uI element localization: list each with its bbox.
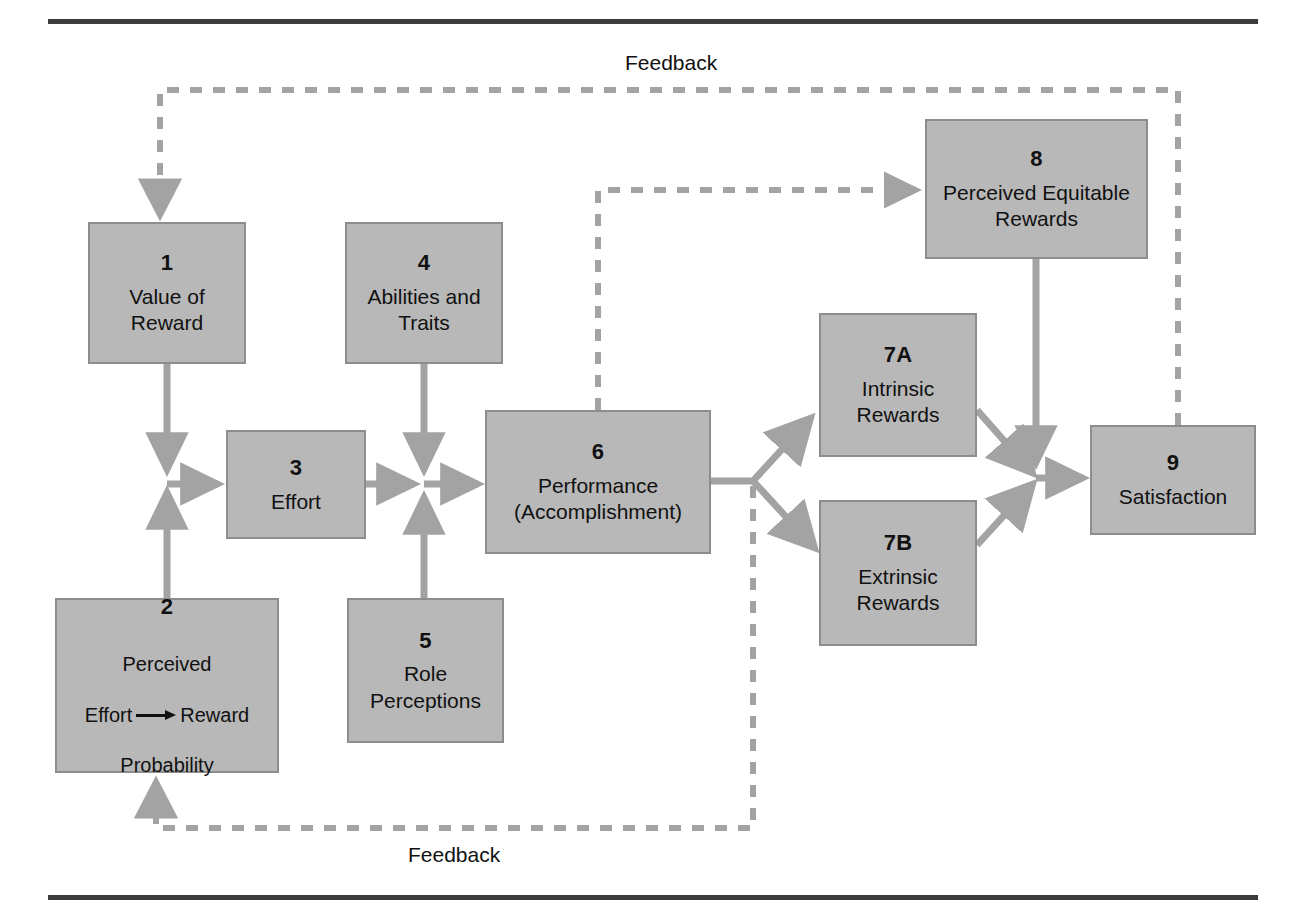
connector-7b-to-satisfaction-junction xyxy=(977,487,1030,545)
node-intrinsic-rewards[interactable]: 7A Intrinsic Rewards xyxy=(819,313,977,457)
diagram-canvas: 1 Value of Reward 2 Perceived EffortRewa… xyxy=(0,0,1308,924)
node-abilities-and-traits[interactable]: 4 Abilities and Traits xyxy=(345,222,503,364)
node-number: 1 xyxy=(161,249,173,277)
node-number: 9 xyxy=(1167,449,1179,477)
node-label: Satisfaction xyxy=(1113,484,1234,510)
feedback-label-bottom: Feedback xyxy=(408,843,500,867)
node-number: 2 xyxy=(161,593,173,621)
node-number: 7A xyxy=(884,341,913,369)
node-extrinsic-rewards[interactable]: 7B Extrinsic Rewards xyxy=(819,500,977,646)
node-effort[interactable]: 3 Effort xyxy=(226,430,366,539)
node-number: 4 xyxy=(418,249,430,277)
node-label: Extrinsic Rewards xyxy=(851,564,946,617)
node-perceived-equitable-rewards[interactable]: 8 Perceived Equitable Rewards xyxy=(925,119,1148,259)
node-label-line-1: Perceived xyxy=(123,653,212,675)
node-label: Abilities and Traits xyxy=(361,284,486,337)
connector-6-to-7a xyxy=(753,421,808,481)
node-number: 8 xyxy=(1030,145,1042,173)
node-label-line-2: EffortReward xyxy=(85,703,249,728)
node-label-effort: Effort xyxy=(85,703,132,728)
node-label: Effort xyxy=(265,489,327,515)
node-label: Perceived Equitable Rewards xyxy=(937,180,1136,233)
node-label-reward: Reward xyxy=(180,703,249,728)
node-number: 6 xyxy=(592,438,604,466)
node-label-line-3: Probability xyxy=(120,754,213,776)
node-label: Performance (Accomplishment) xyxy=(508,473,688,526)
node-label: Perceived EffortReward Probability xyxy=(79,627,255,778)
node-label: Intrinsic Rewards xyxy=(851,376,946,429)
node-role-perceptions[interactable]: 5 Role Perceptions xyxy=(347,598,504,743)
node-perceived-effort-reward-probability[interactable]: 2 Perceived EffortReward Probability xyxy=(55,598,279,773)
node-value-of-reward[interactable]: 1 Value of Reward xyxy=(88,222,246,364)
node-satisfaction[interactable]: 9 Satisfaction xyxy=(1090,425,1256,535)
connector-6-to-7b xyxy=(753,481,812,545)
node-performance[interactable]: 6 Performance (Accomplishment) xyxy=(485,410,711,554)
node-label: Role Perceptions xyxy=(364,661,487,714)
right-arrow-icon xyxy=(136,710,176,721)
node-number: 7B xyxy=(884,529,913,557)
node-number: 3 xyxy=(290,454,302,482)
connector-7a-to-satisfaction-junction xyxy=(977,410,1030,470)
node-number: 5 xyxy=(419,627,431,655)
node-label: Value of Reward xyxy=(123,284,211,337)
feedback-label-top: Feedback xyxy=(625,51,717,75)
